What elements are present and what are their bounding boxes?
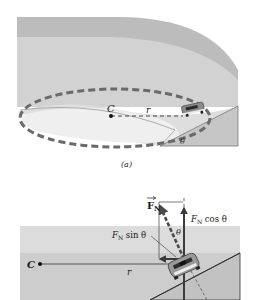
center-label-b: C	[27, 259, 35, 270]
panel-a: C r θ (a)	[17, 17, 238, 169]
panel-b: C r FN FN cos θ FN sin θ θ	[20, 197, 240, 300]
vertical-component-label: FN cos θ	[190, 214, 227, 225]
normal-force-label: FN	[147, 197, 161, 214]
center-point-b	[38, 262, 42, 266]
angle-label-a: θ	[180, 137, 185, 146]
caption-a: (a)	[121, 160, 132, 169]
angle-label-b: θ	[176, 228, 181, 237]
infield	[21, 108, 179, 143]
banked-curve-figure: C r θ (a)	[0, 0, 256, 300]
svg-text:FN: FN	[147, 200, 161, 213]
radius-label-a: r	[146, 105, 151, 115]
horizontal-component-label: FN sin θ	[111, 230, 146, 241]
center-label-a: C	[107, 103, 115, 114]
center-point-a	[109, 114, 113, 118]
radius-label-b: r	[127, 267, 132, 277]
